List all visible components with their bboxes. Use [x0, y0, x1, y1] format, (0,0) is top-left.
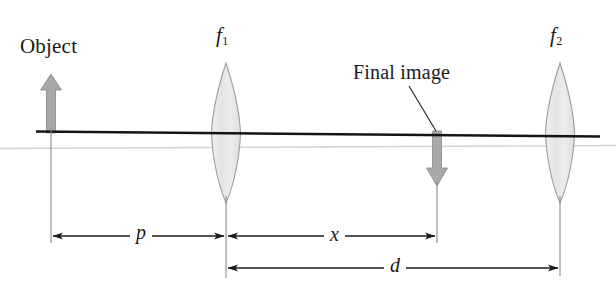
- object-label: Object: [20, 36, 77, 57]
- optical-axis: [36, 132, 600, 137]
- dimension-label-p: p: [130, 222, 152, 242]
- lens1-focal-symbol: f: [216, 23, 222, 47]
- lens2-focal-symbol: f: [550, 23, 556, 47]
- optics-two-lens-diagram: Object Final image f1 f2 p x d: [0, 0, 616, 295]
- lens-2: [546, 63, 575, 203]
- dimension-label-d: d: [384, 255, 406, 275]
- lens2-focal-subscript: 2: [556, 34, 562, 48]
- object-arrow: [41, 74, 62, 133]
- diagram-canvas: [0, 0, 616, 295]
- lens1-focal-subscript: 1: [222, 34, 228, 48]
- faint-horizontal-rule: [0, 146, 616, 149]
- final-image-arrow: [427, 131, 448, 186]
- final-image-label: Final image: [353, 62, 450, 82]
- lens1-focal-label: f1: [216, 25, 228, 46]
- dimension-label-x: x: [324, 224, 345, 244]
- lens2-focal-label: f2: [550, 25, 562, 46]
- final-image-leader-line: [409, 86, 436, 131]
